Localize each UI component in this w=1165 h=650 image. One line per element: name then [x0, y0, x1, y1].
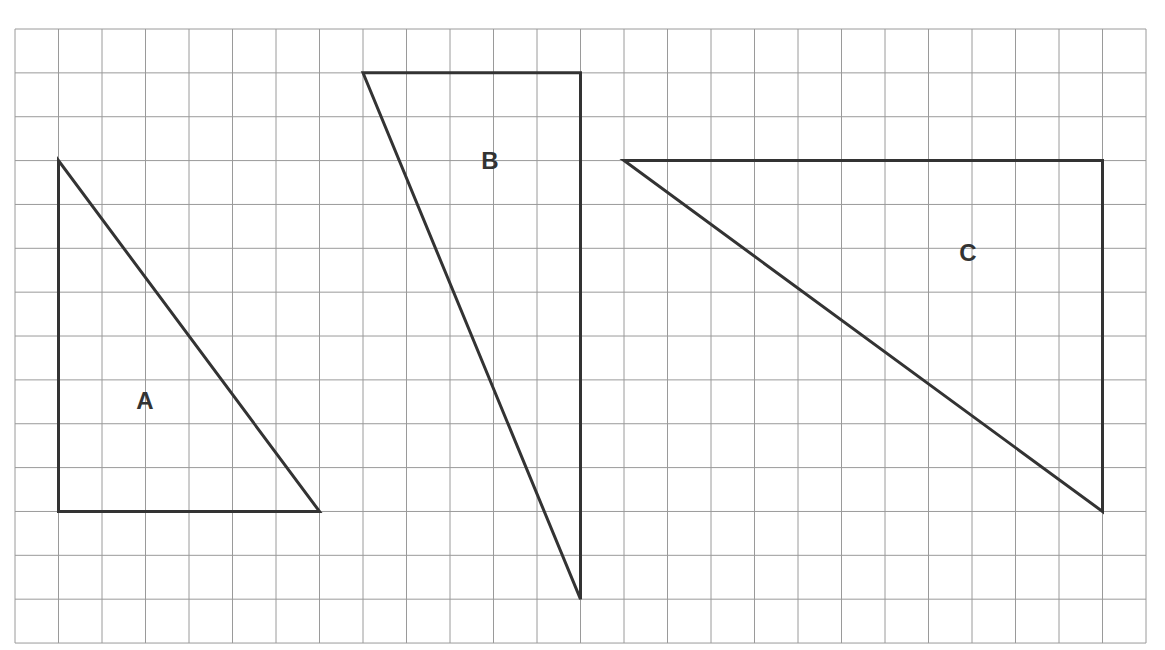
triangle-label-c: C [959, 239, 976, 266]
grid-diagram: ABC [0, 0, 1165, 650]
triangle-label-b: B [481, 147, 498, 174]
triangle-label-a: A [136, 387, 153, 414]
